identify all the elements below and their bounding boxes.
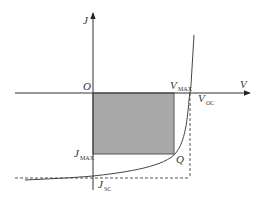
vmax-label: V — [170, 79, 178, 91]
x-axis-label: V — [240, 78, 248, 90]
jsc-subscript: SC — [104, 186, 111, 192]
y-axis-label: J — [83, 14, 89, 26]
iv-curve-diagram: J V O V MAX V OC J MAX J SC Q — [0, 0, 265, 203]
origin-label: O — [83, 80, 91, 92]
q-point-label: Q — [176, 153, 184, 165]
vmax-subscript: MAX — [178, 86, 193, 92]
max-power-rectangle — [93, 93, 174, 154]
voc-label: V — [198, 92, 206, 104]
voc-subscript: OC — [206, 100, 214, 106]
jmax-subscript: MAX — [80, 155, 95, 161]
